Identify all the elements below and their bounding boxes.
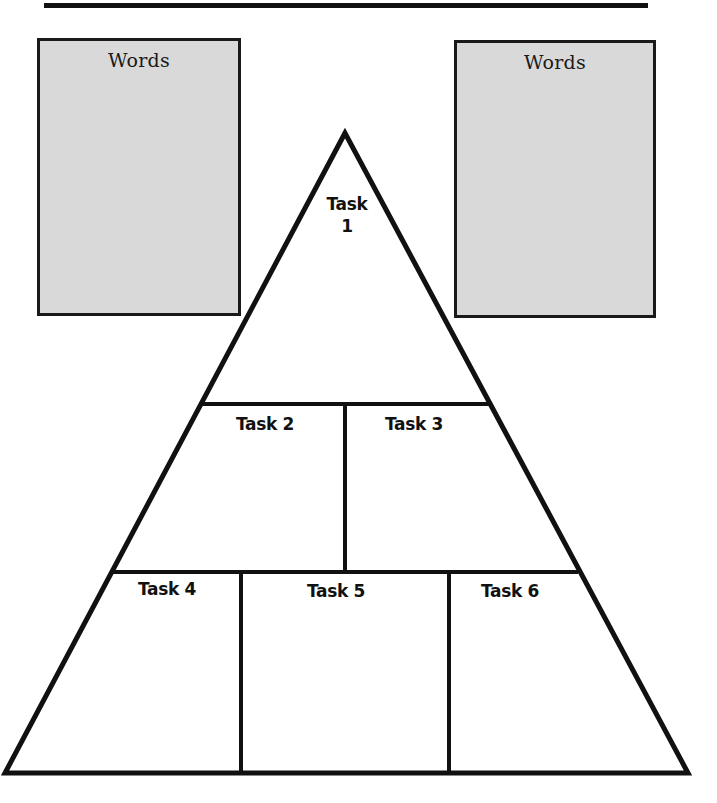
task-4-label[interactable]: Task 4 [117, 578, 217, 600]
task-pyramid [0, 0, 717, 803]
task-1-cell[interactable]: Task 1 [307, 193, 387, 237]
task-1-number: 1 [307, 215, 387, 237]
task-1-label: Task [307, 193, 387, 215]
task-5-label[interactable]: Task 5 [286, 580, 386, 602]
task-2-label[interactable]: Task 2 [215, 413, 315, 435]
task-6-label[interactable]: Task 6 [460, 580, 560, 602]
task-3-label[interactable]: Task 3 [364, 413, 464, 435]
